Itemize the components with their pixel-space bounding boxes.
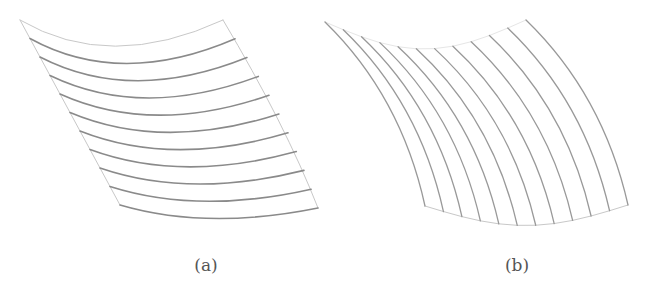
panel-b-grid-line — [362, 37, 462, 217]
panel-a-horizontal-lines — [20, 20, 318, 219]
panel-a-grid-line — [110, 187, 311, 202]
panel-a-grid-line — [90, 150, 296, 167]
panel-a-grid-line — [80, 131, 288, 150]
panel-a-grid-line — [120, 205, 318, 219]
panel-a-grid-line — [20, 20, 223, 46]
panel-b-vertical-lines — [325, 20, 628, 225]
panel-b-grid-line — [453, 46, 554, 223]
panel-b-grid-line — [471, 42, 572, 221]
panel-b-grid-line — [343, 30, 443, 212]
panel-a-right-edge — [223, 20, 318, 208]
panel-a-grid-line — [50, 76, 258, 98]
panel-a-grid-line — [30, 39, 235, 64]
panel-a-grid-line — [40, 57, 247, 81]
caption-b: (b) — [505, 255, 529, 275]
figure-canvas — [0, 0, 648, 295]
panel-b-top-edge — [325, 20, 526, 49]
panel-b-grid-line — [380, 43, 481, 221]
panel-b-bottom-edge — [425, 205, 628, 225]
panel-b-grid-line — [526, 20, 628, 205]
caption-a: (a) — [194, 255, 217, 275]
panel-a-grid-line — [100, 168, 304, 184]
